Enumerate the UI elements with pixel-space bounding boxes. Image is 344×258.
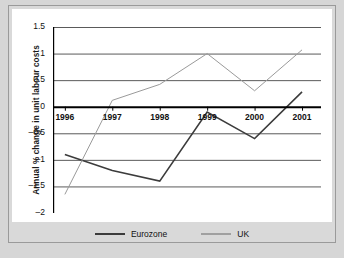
x-axis-tick-labels: 199619971998199920002001 — [53, 112, 321, 126]
x-tick-label: 2001 — [293, 112, 312, 122]
y-tick-label: –2 — [36, 207, 45, 217]
x-tick-label: 1998 — [150, 112, 169, 122]
legend-item: Eurozone — [95, 229, 167, 239]
legend-item: UK — [201, 229, 249, 239]
x-tick-label: 2000 — [245, 112, 264, 122]
legend-label: Eurozone — [131, 229, 167, 239]
x-tick-label: 1999 — [198, 112, 217, 122]
y-tick-label: 1 — [40, 48, 45, 58]
y-axis-tick-labels: 1.510.50–0.5–1–1.5–2 — [12, 27, 49, 213]
legend-line-swatch — [201, 233, 231, 234]
x-tick-label: 1997 — [103, 112, 122, 122]
y-tick-label: 0 — [40, 101, 45, 111]
x-tick-label: 1996 — [55, 112, 74, 122]
legend-label: UK — [237, 229, 249, 239]
y-tick-label: –0.5 — [28, 127, 45, 137]
chart-figure: Annual % change in unit labour costs 1.5… — [0, 0, 344, 258]
series-line-eurozone — [65, 92, 302, 181]
y-tick-label: 1.5 — [33, 21, 45, 31]
y-tick-label: 0.5 — [33, 74, 45, 84]
y-tick-label: –1 — [36, 154, 45, 164]
chart-panel: Annual % change in unit labour costs 1.5… — [12, 9, 332, 222]
legend-line-swatch — [95, 233, 125, 235]
chart-legend: EurozoneUK — [12, 226, 332, 242]
y-tick-label: –1.5 — [28, 180, 45, 190]
